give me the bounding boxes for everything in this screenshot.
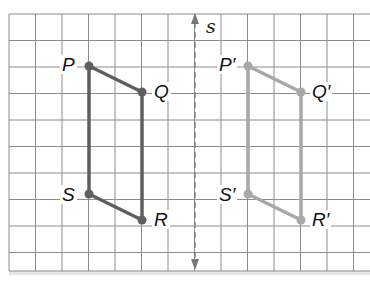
label-p-prime: P′ <box>217 55 237 74</box>
label-s-prime: S′ <box>217 185 237 204</box>
vertex-r <box>138 216 147 225</box>
vertex-q-prime <box>297 88 306 97</box>
arrow-up-icon <box>191 13 199 24</box>
label-s: S <box>60 185 77 204</box>
arrow-down-icon <box>191 259 199 270</box>
vertex-s <box>85 190 94 199</box>
label-q: Q <box>152 82 171 101</box>
label-r-prime: R′ <box>310 210 331 229</box>
grid-lines <box>9 14 370 271</box>
vertex-p <box>85 62 94 71</box>
vertex-p-prime <box>244 62 253 71</box>
vertex-q <box>138 88 147 97</box>
vertex-s-prime <box>244 190 253 199</box>
grid-canvas <box>0 0 370 290</box>
reflection-diagram: P Q S R P′ Q′ S′ R′ s <box>0 0 370 290</box>
label-p: P <box>60 55 77 74</box>
vertex-r-prime <box>297 216 306 225</box>
paper-shadow <box>9 271 370 275</box>
label-q-prime: Q′ <box>310 82 332 101</box>
label-r: R <box>152 210 170 229</box>
label-axis-s: s <box>204 17 218 36</box>
